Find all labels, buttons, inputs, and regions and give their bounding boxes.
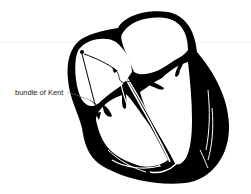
heart-illustration [0, 0, 251, 194]
bundle-of-kent-label: bundle of Kent [15, 88, 63, 97]
heart-diagram: bundle of Kent [0, 0, 251, 194]
sa-node-dot [80, 50, 84, 54]
